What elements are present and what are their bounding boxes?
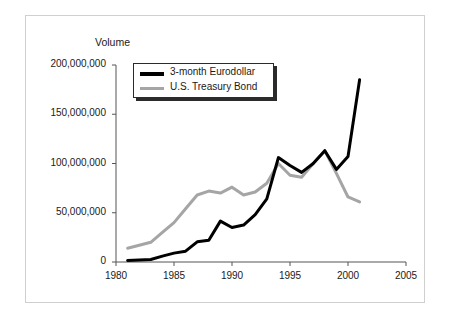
y-tick-label: 150,000,000: [38, 107, 106, 118]
chart-legend: 3-month Eurodollar U.S. Treasury Bond: [133, 63, 274, 98]
x-tick-label: 1980: [91, 270, 141, 281]
legend-swatch-treasury-bond: [140, 87, 164, 90]
legend-label-treasury-bond: U.S. Treasury Bond: [170, 81, 257, 92]
legend-label-eurodollar: 3-month Eurodollar: [170, 66, 255, 77]
y-tick-label: 200,000,000: [38, 58, 106, 69]
x-tick-label: 1990: [207, 270, 257, 281]
data-series-group: [128, 80, 360, 261]
y-tick-label: 0: [38, 255, 106, 266]
x-axis-tick-marks: [116, 262, 406, 266]
y-axis-title: Volume: [95, 36, 130, 48]
x-tick-label: 1995: [265, 270, 315, 281]
y-axis-tick-marks: [112, 65, 116, 262]
x-tick-label: 1985: [149, 270, 199, 281]
legend-swatch-eurodollar: [140, 72, 164, 76]
x-tick-label: 2005: [381, 270, 431, 281]
y-tick-label: 50,000,000: [38, 206, 106, 217]
y-tick-label: 100,000,000: [38, 157, 106, 168]
x-tick-label: 2000: [323, 270, 373, 281]
series-line-treasury-bond: [128, 151, 360, 249]
